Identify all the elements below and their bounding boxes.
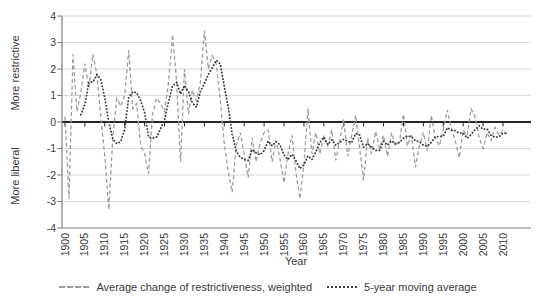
dotted-line-swatch	[327, 286, 357, 288]
svg-text:1920: 1920	[138, 233, 150, 257]
svg-text:1975: 1975	[357, 233, 369, 257]
svg-text:2000: 2000	[457, 233, 469, 257]
svg-text:1955: 1955	[278, 233, 290, 257]
svg-text:1945: 1945	[238, 233, 250, 257]
dashed-line-swatch	[59, 286, 89, 288]
svg-text:1950: 1950	[258, 233, 270, 257]
legend-item-moving-average: 5-year moving average	[327, 281, 477, 293]
svg-text:1: 1	[50, 89, 56, 101]
svg-text:1940: 1940	[218, 233, 230, 257]
svg-text:2: 2	[50, 63, 56, 75]
svg-text:0: 0	[50, 116, 56, 128]
svg-text:-1: -1	[47, 142, 56, 154]
svg-text:1970: 1970	[337, 233, 349, 257]
svg-text:-2: -2	[47, 169, 56, 181]
line-chart-canvas: 43210-1-2-3-4190019051910191519201925193…	[0, 0, 536, 302]
x-axis-title: Year	[285, 255, 307, 267]
svg-text:4: 4	[50, 10, 56, 22]
svg-text:1905: 1905	[78, 233, 90, 257]
svg-text:1960: 1960	[297, 233, 309, 257]
svg-text:1915: 1915	[118, 233, 130, 257]
svg-text:1965: 1965	[317, 233, 329, 257]
svg-text:1985: 1985	[397, 233, 409, 257]
svg-text:1990: 1990	[417, 233, 429, 257]
svg-text:1935: 1935	[198, 233, 210, 257]
svg-text:-4: -4	[47, 222, 56, 234]
y-axis-label-more-restrictive: More restrictive	[9, 35, 21, 110]
svg-text:1995: 1995	[437, 233, 449, 257]
legend-item-yearly: Average change of restrictiveness, weigh…	[59, 281, 312, 293]
chart-figure: 43210-1-2-3-4190019051910191519201925193…	[0, 0, 536, 302]
y-axis-label-more-liberal: More liberal	[9, 147, 21, 204]
svg-text:3: 3	[50, 36, 56, 48]
svg-text:2010: 2010	[497, 233, 509, 257]
svg-text:1930: 1930	[178, 233, 190, 257]
svg-text:-3: -3	[47, 195, 56, 207]
svg-text:1925: 1925	[158, 233, 170, 257]
svg-text:2005: 2005	[477, 233, 489, 257]
legend-label-moving-average: 5-year moving average	[364, 281, 477, 293]
svg-text:1980: 1980	[377, 233, 389, 257]
legend: Average change of restrictiveness, weigh…	[0, 281, 536, 293]
legend-label-yearly: Average change of restrictiveness, weigh…	[96, 281, 312, 293]
svg-text:1910: 1910	[98, 233, 110, 257]
svg-text:1900: 1900	[59, 233, 71, 257]
